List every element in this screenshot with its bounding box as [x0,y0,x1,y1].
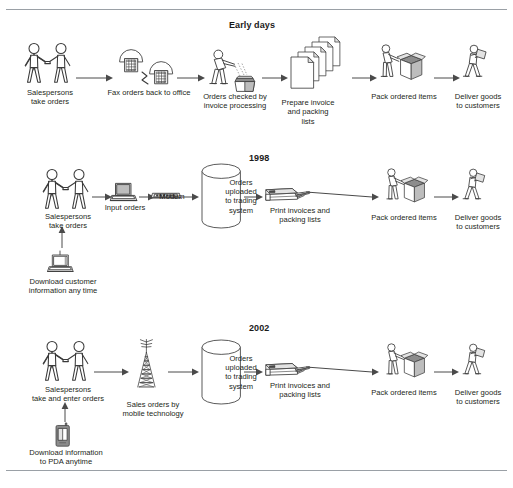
caption-prepare-invoice: Prepare invoice and packing lists [272,98,344,126]
caption-orders-checked: Orders checked by invoice processing [194,92,276,111]
caption-pack-items-2002: Pack ordered items [363,388,445,397]
bottom-divider [6,470,507,471]
row-title-2002: 2002 [249,323,269,333]
caption-pack-items-early: Pack ordered items [365,92,443,101]
caption-pack-items-1998: Pack ordered items [363,213,445,222]
caption-input-orders: Input orders [96,203,154,212]
diagram-page: Early days 1998 2002 [0,0,513,488]
caption-deliver-goods-2002: Deliver goods to customers [446,388,510,407]
caption-fax-orders: Fax orders back to office [99,88,199,97]
top-divider [6,9,507,10]
row-title-early-days: Early days [229,20,275,30]
caption-modem: Modem [151,192,193,201]
caption-deliver-goods-early: Deliver goods to customers [446,92,510,111]
caption-mobile-technology: Sales orders by mobile technology [115,400,191,419]
diagram-artwork [0,0,513,488]
caption-download-pda: Download information to PDA anytime [14,448,118,467]
caption-salespersons-1998: Salespersons take orders [30,212,106,231]
row-title-1998: 1998 [249,153,269,163]
caption-download-customer: Download customer information any time [11,277,115,296]
row-early-days-art [25,37,486,91]
caption-print-invoices-1998: Print invoices and packing lists [253,206,347,225]
caption-salespersons-2002: Salespersons take and enter orders [23,385,113,404]
caption-print-invoices-2002: Print invoices and packing lists [253,381,347,400]
caption-deliver-goods-1998: Deliver goods to customers [446,213,510,232]
caption-salespersons-early: Salespersons take orders [12,88,88,107]
